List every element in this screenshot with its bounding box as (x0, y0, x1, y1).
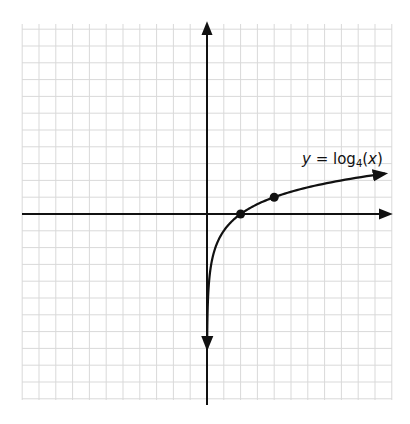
label-base: 4 (356, 158, 362, 169)
data-point (270, 193, 279, 202)
log-graph (0, 0, 410, 424)
label-y: y (302, 150, 311, 168)
function-label: y = log4(x) (302, 150, 383, 169)
data-point (236, 210, 245, 219)
